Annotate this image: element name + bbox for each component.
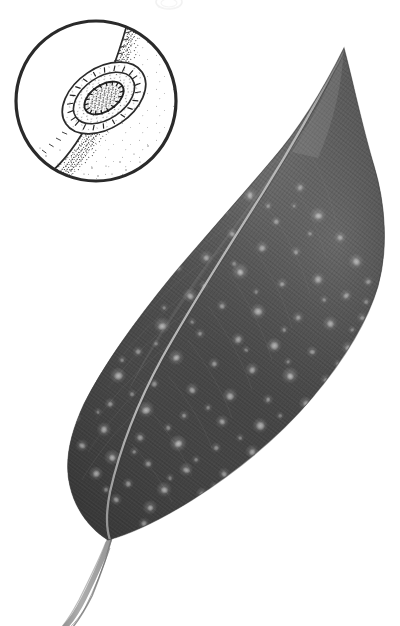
botanical-plate: magnified lesion detail spotted leaf bla… [0,0,400,626]
leaf-spot [252,418,268,434]
leaf-spot [210,442,221,453]
leaf-spot [117,355,127,365]
leaf-spot [292,312,305,325]
leaf-spot [156,482,172,498]
leaf-spot [294,182,307,195]
leaf-spot [305,229,315,239]
leaf-spot [281,367,299,385]
leaf-spot [319,295,329,305]
leaf-spot [270,216,281,227]
leaf-spot [310,272,325,287]
leaf-spot [235,433,245,443]
leaf-spot [185,383,199,397]
leaf-spot [216,300,228,312]
leaf-spot [203,403,213,413]
leaf-spot [276,278,289,291]
leaf-spot [249,303,266,320]
leaf-spot [283,357,293,367]
leaf-spot [348,254,365,271]
leaf-spot [142,500,158,516]
leaf-spot [266,338,282,354]
leaf-spot [199,251,214,266]
leaf-spot [151,339,160,348]
leaf-spot [88,466,103,481]
leaf-spot [362,276,373,287]
leaf-spot [222,388,238,404]
leaf-spot [251,287,260,296]
leaf-spot [93,407,102,416]
leaf-spot [109,367,126,384]
leaf-spot [129,447,139,457]
leaf-spot [163,423,173,433]
leaf-spot [262,394,274,406]
leaf-spot [290,246,302,258]
leaf-spot [361,297,371,307]
leaf-spot [309,207,326,224]
leaf-spot [306,346,318,358]
leaf-spot [169,435,187,453]
leaf-spot [333,231,347,245]
leaf-spot [290,202,299,211]
leaf-spot [187,317,197,327]
leaf-spot [127,389,137,399]
leaf-spot [231,333,245,347]
leaf-spot [104,398,116,410]
leaf-spot [134,432,147,445]
leaf-spot [255,241,269,255]
leaf-spot [279,325,289,335]
leaf-spot [132,346,144,358]
leaf-spot [153,317,170,334]
leaf-spot [215,415,229,429]
leaf-spot [275,411,284,420]
leaf-spot [159,303,169,313]
leaf-spot [241,345,250,354]
leaf-spot [229,259,239,269]
leaf-spot [322,316,338,332]
leaf-spot [165,473,175,483]
illustration-canvas [0,0,400,626]
leaf-spot [178,410,189,421]
leaf-spot [347,325,356,334]
leaf-spot [245,363,260,378]
leaf-spot [75,439,89,453]
leaf-spot [142,458,154,470]
leaf-spot [208,358,221,371]
leaf-spot [263,201,273,211]
leaf-spot [122,478,134,490]
leaf-spot [194,328,205,339]
leaf-spot [168,350,185,367]
leaf-spot [96,422,112,438]
leaf-spot [339,289,352,302]
leaf-spot [179,463,194,478]
leaf-spot [191,455,201,465]
